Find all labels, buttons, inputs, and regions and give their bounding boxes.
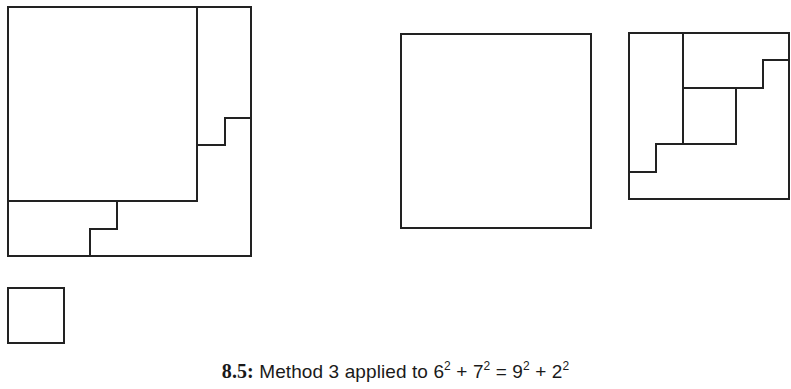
term-base: 2: [552, 361, 563, 382]
equation: 62 + 72 = 92 + 22: [433, 361, 569, 382]
dissection-diagram: [0, 0, 791, 389]
term-base: 7: [473, 361, 484, 382]
term-exponent: 2: [562, 359, 569, 373]
outer-square-6x6: [629, 33, 789, 199]
term-exponent: 2: [523, 359, 530, 373]
plus-sign: +: [456, 361, 467, 382]
equals-sign: =: [496, 361, 507, 382]
figure-number: 8.5:: [222, 360, 254, 382]
middle-square-7x7: [401, 34, 591, 228]
right-figure-6x6: [629, 33, 789, 199]
term-base: 9: [512, 361, 523, 382]
small-square-2x2: [8, 288, 64, 343]
outer-square-9x9: [8, 7, 251, 256]
left-figure-9x9: [8, 7, 251, 256]
term-base: 6: [433, 361, 444, 382]
term-exponent: 2: [444, 359, 451, 373]
inner-square-7x7-edges: [8, 7, 197, 201]
upper-staircase-cut: [683, 33, 789, 88]
figure-caption: 8.5: Method 3 applied to 62 + 72 = 92 + …: [0, 360, 791, 383]
bottom-staircase-cut: [90, 201, 117, 256]
term-exponent: 2: [484, 359, 491, 373]
right-staircase-cut: [197, 118, 251, 145]
plus-sign: +: [535, 361, 546, 382]
caption-text: Method 3 applied to: [259, 361, 428, 382]
